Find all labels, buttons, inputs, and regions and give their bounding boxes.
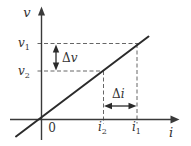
v1-tick-label: v1 bbox=[18, 36, 30, 52]
v-axis-arrowhead-icon bbox=[38, 7, 45, 16]
delta-i-var: i bbox=[121, 87, 125, 101]
delta-i-symbol: Δ bbox=[112, 87, 121, 101]
i2-subscript: 2 bbox=[102, 127, 107, 136]
vi-characteristic-figure: v i 0 v1 v2 i2 i1 Δv Δi bbox=[0, 0, 191, 146]
v1-subscript: 1 bbox=[25, 43, 30, 52]
delta-i-arrow-left-icon bbox=[104, 103, 112, 109]
x-axis-label: i bbox=[169, 125, 173, 140]
delta-v-arrow-down-icon bbox=[53, 63, 59, 71]
origin-label: 0 bbox=[48, 121, 56, 135]
i2-tick-label: i2 bbox=[98, 120, 107, 136]
i1-subscript: 1 bbox=[136, 127, 141, 136]
delta-v-symbol: Δ bbox=[62, 51, 71, 65]
vi-characteristic-line bbox=[16, 37, 149, 137]
i-axis-arrowhead-icon bbox=[171, 116, 180, 124]
vi-graph-canvas: v i 0 v1 v2 i2 i1 Δv Δi bbox=[0, 0, 191, 146]
v2-tick-label: v2 bbox=[18, 64, 30, 80]
delta-v-var: v bbox=[71, 51, 78, 65]
delta-v-label: Δv bbox=[62, 51, 78, 65]
i1-tick-label: i1 bbox=[132, 120, 141, 136]
delta-i-label: Δi bbox=[112, 87, 125, 101]
delta-v-arrow-up-icon bbox=[53, 45, 59, 53]
y-axis-label: v bbox=[23, 5, 31, 20]
v2-subscript: 2 bbox=[25, 71, 30, 80]
delta-i-arrow-right-icon bbox=[129, 103, 137, 109]
